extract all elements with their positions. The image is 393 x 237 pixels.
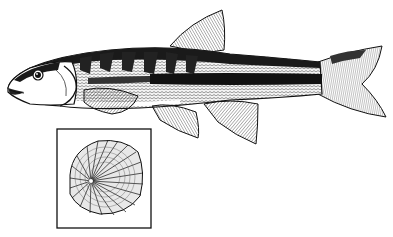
eye <box>33 70 43 80</box>
anal-fin <box>204 101 258 144</box>
fish-head <box>8 62 77 106</box>
scale-drawing <box>70 140 143 215</box>
illustration-canvas <box>0 0 393 237</box>
fish-illustration <box>0 0 393 237</box>
caudal-fin <box>318 46 386 117</box>
scale-inset <box>57 129 151 228</box>
dorsal-fin <box>170 10 225 52</box>
pelvic-fin <box>152 105 199 138</box>
